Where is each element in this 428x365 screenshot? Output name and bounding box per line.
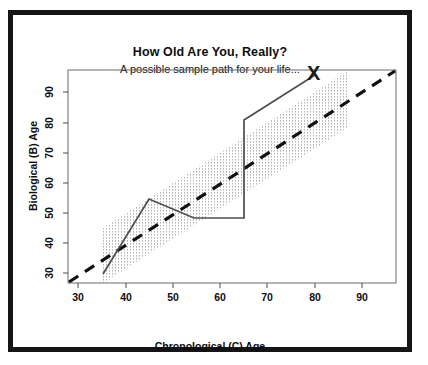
x-tick-label-40: 40 xyxy=(111,291,141,303)
y-tick-label-90: 90 xyxy=(43,78,55,106)
chart-canvas: How Old Are You, Really? A possible samp… xyxy=(13,15,407,347)
y-tick-label-60: 60 xyxy=(43,169,55,197)
x-tick-label-90: 90 xyxy=(347,291,377,303)
y-tick-label-80: 80 xyxy=(43,109,55,137)
y-tick-label-40: 40 xyxy=(43,229,55,257)
y-tick-label-30: 30 xyxy=(43,259,55,287)
death-marker-x: X xyxy=(307,63,320,83)
image-frame-border: How Old Are You, Really? A possible samp… xyxy=(8,10,412,352)
x-tick-label-60: 60 xyxy=(205,291,235,303)
y-axis-ticks xyxy=(63,92,68,273)
y-tick-label-70: 70 xyxy=(43,139,55,167)
x-axis-title: Chronological (C) Age xyxy=(13,340,407,352)
x-tick-label-70: 70 xyxy=(252,291,282,303)
screenshot-root: How Old Are You, Really? A possible samp… xyxy=(0,0,428,365)
plausible-range-band xyxy=(103,70,349,283)
x-tick-label-80: 80 xyxy=(300,291,330,303)
y-axis-title: Biological (B) Age xyxy=(27,76,39,256)
y-tick-label-50: 50 xyxy=(43,199,55,227)
x-tick-label-30: 30 xyxy=(63,291,93,303)
x-axis-ticks xyxy=(78,283,362,288)
x-tick-label-50: 50 xyxy=(158,291,188,303)
